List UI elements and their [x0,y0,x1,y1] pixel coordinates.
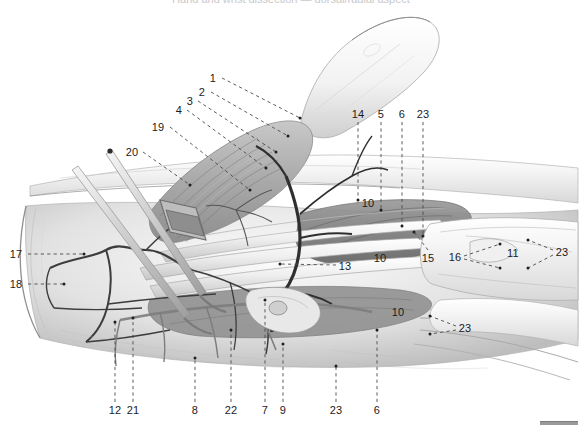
figure-label-10: 10 [374,253,387,264]
figure-label-21: 21 [127,405,140,416]
figure-label-15: 15 [422,253,435,264]
figure-label-23: 23 [330,405,343,416]
figure-label-22: 22 [225,405,238,416]
figure-label-13: 13 [339,261,352,272]
figure-label-20: 20 [126,147,139,158]
figure-label-1: 1 [210,73,216,84]
figure-label-16: 16 [449,252,462,263]
figure-label-17: 17 [10,249,23,260]
figure-label-2: 2 [199,87,205,98]
figure-label-7: 7 [262,405,268,416]
figure-label-14: 14 [352,109,365,120]
figure-label-6: 6 [374,405,380,416]
anatomy-plate: Hand and wrist dissection — dorsal/radia… [0,0,582,430]
figure-label-10: 10 [362,198,375,209]
figure-label-12: 12 [109,405,122,416]
figure-label-23: 23 [417,109,430,120]
figure-label-19: 19 [152,122,165,133]
anatomy-illustration [0,0,582,430]
figure-label-11: 11 [507,248,519,259]
figure-label-18: 18 [10,279,23,290]
figure-label-6: 6 [399,109,405,120]
figure-label-23: 23 [556,247,569,258]
figure-label-3: 3 [187,96,193,107]
figure-label-5: 5 [378,109,384,120]
figure-label-8: 8 [192,405,198,416]
figure-label-9: 9 [280,405,286,416]
figure-label-23: 23 [459,323,472,334]
scale-bar [540,421,578,425]
figure-label-10: 10 [392,307,405,318]
thumb [300,17,439,138]
figure-label-4: 4 [176,105,182,116]
